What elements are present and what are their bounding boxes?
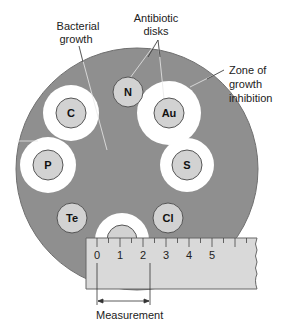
label-zone-3: inhibition bbox=[229, 92, 272, 104]
ruler-tick-4: 4 bbox=[186, 249, 192, 261]
label-antibiotic-disks-2: disks bbox=[143, 25, 169, 37]
disk-label-p: P bbox=[44, 159, 51, 171]
ruler-tick-0: 0 bbox=[94, 249, 100, 261]
disk-label-n: N bbox=[124, 86, 132, 98]
disk-label-s: S bbox=[183, 159, 190, 171]
label-measurement: Measurement bbox=[96, 309, 163, 321]
label-bacterial-growth-2: growth bbox=[59, 33, 92, 45]
ruler-tick-5: 5 bbox=[209, 249, 215, 261]
ruler-tick-3: 3 bbox=[163, 249, 169, 261]
label-bacterial-growth-1: Bacterial bbox=[57, 20, 100, 32]
disk-diffusion-diagram: N C Au P S Te Cl 0 1 2 3 4 5 bbox=[0, 0, 285, 331]
disk-label-cl: Cl bbox=[163, 212, 174, 224]
disk-label-te: Te bbox=[66, 212, 78, 224]
label-antibiotic-disks-1: Antibiotic bbox=[134, 12, 179, 24]
label-zone-2: growth bbox=[229, 78, 262, 90]
disk-label-c: C bbox=[67, 107, 75, 119]
ruler-tick-1: 1 bbox=[117, 249, 123, 261]
disk-label-au: Au bbox=[162, 107, 177, 119]
ruler: 0 1 2 3 4 5 bbox=[86, 238, 257, 289]
label-zone-1: Zone of bbox=[229, 64, 267, 76]
ruler-tick-2: 2 bbox=[140, 249, 146, 261]
